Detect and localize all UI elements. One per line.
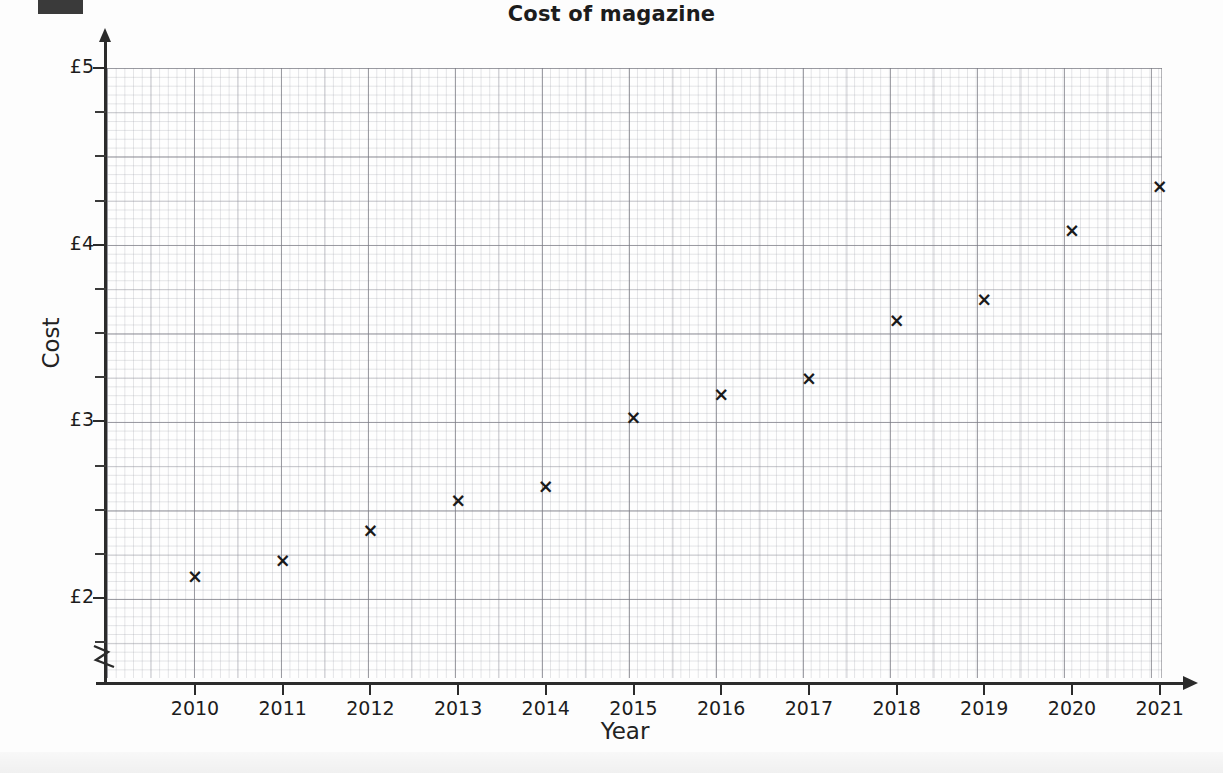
x-tick-2020 [1071,682,1073,695]
data-point-2013: × [449,491,468,510]
x-axis-arrow-icon [1183,676,1198,690]
axis-break-icon [92,640,124,674]
y-tick-3 [93,420,106,422]
data-point-2017: × [799,369,818,388]
x-tick-label-2019: 2019 [939,697,1029,719]
data-point-2010: × [186,567,205,586]
data-point-2021: × [1150,177,1169,196]
plot-grid-area [107,68,1162,678]
y-axis-arrow-icon [99,28,111,42]
x-tick-label-2014: 2014 [501,697,591,719]
y-minor-tick [95,376,106,378]
y-minor-tick [95,155,106,157]
data-point-2015: × [624,408,643,427]
data-point-2020: × [1063,221,1082,240]
x-tick-label-2015: 2015 [589,697,679,719]
y-tick-label-2: £2 [48,585,94,607]
x-tick-2019 [983,682,985,695]
y-tick-4 [93,244,106,246]
chart-title: Cost of magazine [0,2,1223,26]
y-tick-label-5: £5 [48,55,94,77]
x-tick-2013 [457,682,459,695]
x-tick-2017 [808,682,810,695]
y-tick-label-3: £3 [48,408,94,430]
page-edge-shadow [0,752,1223,773]
x-tick-2012 [369,682,371,695]
data-point-2019: × [975,290,994,309]
data-point-2016: × [712,385,731,404]
x-tick-label-2010: 2010 [150,697,240,719]
y-axis-line [104,40,107,683]
x-tick-2015 [633,682,635,695]
x-tick-2016 [720,682,722,695]
x-tick-label-2016: 2016 [676,697,766,719]
x-tick-label-2020: 2020 [1027,697,1117,719]
x-tick-2018 [896,682,898,695]
x-tick-label-2012: 2012 [325,697,415,719]
y-minor-tick [95,553,106,555]
data-point-2012: × [361,521,380,540]
y-minor-tick [95,509,106,511]
y-minor-tick [95,288,106,290]
x-tick-2011 [282,682,284,695]
x-tick-2014 [545,682,547,695]
y-tick-2 [93,597,106,599]
x-tick-2010 [194,682,196,695]
x-tick-label-2017: 2017 [764,697,854,719]
y-tick-5 [93,67,106,69]
y-minor-tick [95,465,106,467]
x-tick-label-2013: 2013 [413,697,503,719]
y-axis-title: Cost [38,288,64,398]
data-point-2014: × [536,477,555,496]
x-axis-line [96,682,1185,685]
y-tick-label-4: £4 [48,232,94,254]
x-tick-label-2011: 2011 [238,697,328,719]
y-minor-tick [95,641,106,643]
y-minor-tick [95,200,106,202]
y-minor-tick [95,332,106,334]
y-minor-tick [95,111,106,113]
chart-page: Cost of magazine £5£4£3£2 20102011201220… [0,0,1223,773]
x-axis-title: Year [555,718,695,744]
data-point-2018: × [887,311,906,330]
x-tick-2021 [1159,682,1161,695]
x-tick-label-2021: 2021 [1115,697,1205,719]
data-point-2011: × [273,551,292,570]
x-tick-label-2018: 2018 [852,697,942,719]
